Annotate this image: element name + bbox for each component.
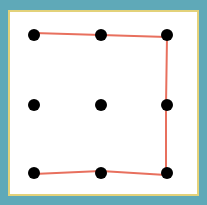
dot-2[interactable] bbox=[161, 29, 173, 41]
puzzle-canvas[interactable] bbox=[0, 0, 207, 205]
dot-5[interactable] bbox=[161, 99, 173, 111]
dot-7[interactable] bbox=[95, 167, 107, 179]
dot-0[interactable] bbox=[28, 29, 40, 41]
dot-8[interactable] bbox=[161, 167, 173, 179]
dot-4[interactable] bbox=[95, 99, 107, 111]
dot-1[interactable] bbox=[95, 29, 107, 41]
dot-6[interactable] bbox=[28, 167, 40, 179]
dot-grid bbox=[28, 29, 173, 179]
dot-3[interactable] bbox=[28, 99, 40, 111]
